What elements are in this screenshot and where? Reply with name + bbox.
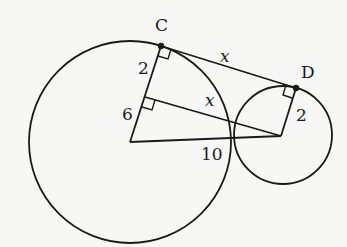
label-10: 10 (201, 144, 223, 164)
label-c: C (155, 15, 168, 35)
label-inner-x: x (205, 90, 215, 110)
point-d (293, 85, 299, 91)
label-cd-x: x (220, 46, 230, 66)
label-6: 6 (122, 104, 133, 124)
small-circle (234, 86, 332, 184)
point-c (158, 43, 164, 49)
center-line (130, 136, 281, 142)
geometry-diagram: C D x x 2 6 2 10 (0, 0, 347, 247)
label-2-top: 2 (138, 58, 149, 78)
label-2-small: 2 (296, 105, 307, 125)
label-d: D (301, 62, 315, 82)
